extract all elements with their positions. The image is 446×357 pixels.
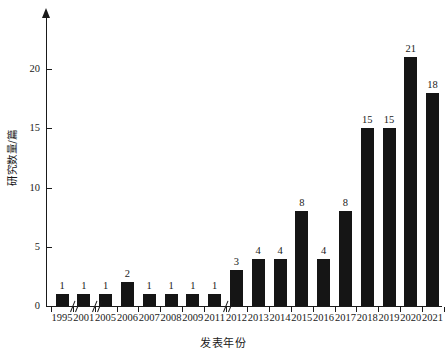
bar-value-label: 8 xyxy=(331,198,359,208)
x-axis-tick xyxy=(204,307,205,312)
x-axis-tick xyxy=(313,307,314,312)
bar xyxy=(186,294,199,306)
bar-value-label: 3 xyxy=(222,257,250,267)
axis-break-mark xyxy=(89,300,101,313)
x-axis-tick xyxy=(291,307,292,312)
x-axis-tick xyxy=(378,307,379,312)
bar-value-label: 1 xyxy=(201,281,229,291)
x-axis-tick xyxy=(422,307,423,312)
bar xyxy=(339,211,352,306)
y-axis-tick xyxy=(47,69,52,70)
y-axis-tick-label: 5 xyxy=(18,242,40,252)
x-axis-title: 发表年份 xyxy=(0,334,446,350)
y-axis-tick-label: 10 xyxy=(18,183,40,193)
x-axis-line xyxy=(46,306,442,307)
axis-break-mark xyxy=(220,300,232,313)
bar-value-label: 2 xyxy=(113,269,141,279)
y-axis-tick xyxy=(47,188,52,189)
x-axis-tick xyxy=(356,307,357,312)
axis-break-mark xyxy=(67,300,79,313)
x-axis-tick xyxy=(138,307,139,312)
bar xyxy=(426,93,439,306)
bar-chart: 研究数量/篇 05101520 发表年份 1112111134484815152… xyxy=(0,0,446,357)
y-axis-tick-label: 20 xyxy=(18,64,40,74)
bar xyxy=(383,128,396,306)
x-axis-tick-label: 2021 xyxy=(419,312,446,323)
bar xyxy=(143,294,156,306)
x-axis-tick xyxy=(335,307,336,312)
x-axis-tick xyxy=(444,307,445,312)
bar xyxy=(274,259,287,306)
bar xyxy=(165,294,178,306)
x-axis-tick xyxy=(269,307,270,312)
bar-value-label: 15 xyxy=(375,115,403,125)
bar-value-label: 4 xyxy=(310,246,338,256)
x-axis-tick xyxy=(182,307,183,312)
y-axis-title: 研究数量/篇 xyxy=(4,118,19,198)
bar xyxy=(252,259,265,306)
bar xyxy=(361,128,374,306)
x-axis-tick xyxy=(400,307,401,312)
bar xyxy=(121,282,134,306)
x-axis-tick xyxy=(247,307,248,312)
y-axis-tick xyxy=(47,128,52,129)
bar-value-label: 18 xyxy=(419,80,446,90)
x-axis-tick xyxy=(117,307,118,312)
bar-value-label: 4 xyxy=(266,246,294,256)
x-axis-tick xyxy=(160,307,161,312)
bar-value-label: 21 xyxy=(397,44,425,54)
bar xyxy=(317,259,330,306)
bar-value-label: 1 xyxy=(92,281,120,291)
x-axis-tick xyxy=(51,307,52,312)
y-axis-line xyxy=(46,16,47,307)
bar xyxy=(295,211,308,306)
bar-value-label: 8 xyxy=(288,198,316,208)
y-axis-tick-label: 0 xyxy=(18,301,40,311)
y-axis-tick xyxy=(47,247,52,248)
bar xyxy=(404,57,417,306)
y-axis-tick-label: 15 xyxy=(18,123,40,133)
y-axis-arrow-icon xyxy=(42,8,50,18)
